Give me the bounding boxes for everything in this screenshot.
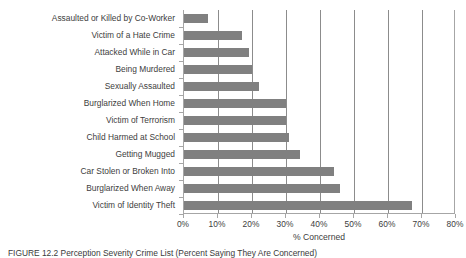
category-label: Sexually Assaulted: [105, 78, 175, 95]
x-tick-mark: [251, 214, 252, 218]
bar-row: [184, 129, 454, 146]
bar: [184, 133, 289, 142]
bar-row: [184, 197, 454, 214]
x-tick-label: 40%: [302, 219, 336, 229]
category-label: Victim of Terrorism: [106, 112, 175, 129]
bar: [184, 65, 252, 74]
bar-chart: Assaulted or Killed by Co-WorkerVictim o…: [0, 0, 466, 232]
x-tick-label: 60%: [370, 219, 404, 229]
bar-row: [184, 10, 454, 27]
x-tick-mark: [217, 214, 218, 218]
x-tick-label: 50%: [336, 219, 370, 229]
x-tick-label: 30%: [268, 219, 302, 229]
x-tick-mark: [183, 214, 184, 218]
bar-row: [184, 163, 454, 180]
plot-area: [183, 10, 455, 214]
x-tick-mark: [353, 214, 354, 218]
x-tick-label: 70%: [404, 219, 438, 229]
bar: [184, 201, 412, 210]
bar: [184, 31, 242, 40]
x-tick-label: 80%: [438, 219, 466, 229]
category-axis-labels: Assaulted or Killed by Co-WorkerVictim o…: [0, 10, 180, 214]
category-label: Getting Mugged: [115, 146, 175, 163]
x-tick-mark: [285, 214, 286, 218]
bar: [184, 14, 208, 23]
bar-row: [184, 78, 454, 95]
bar-row: [184, 146, 454, 163]
bar: [184, 150, 300, 159]
x-tick-mark: [421, 214, 422, 218]
category-label: Victim of a Hate Crime: [91, 27, 175, 44]
x-tick-mark: [319, 214, 320, 218]
bar: [184, 116, 286, 125]
x-tick-label: 0%: [166, 219, 200, 229]
x-tick-label: 10%: [200, 219, 234, 229]
bar-series: [184, 10, 454, 213]
category-label: Child Harmed at School: [87, 129, 175, 146]
figure-caption: FIGURE 12.2 Perception Severity Crime Li…: [8, 248, 466, 258]
bar-row: [184, 27, 454, 44]
bar-row: [184, 61, 454, 78]
category-label: Burglarized When Home: [84, 95, 175, 112]
category-label: Attacked While in Car: [94, 44, 175, 61]
x-axis-title: % Concerned: [183, 232, 455, 242]
bar-row: [184, 180, 454, 197]
bar: [184, 99, 286, 108]
x-tick-mark: [455, 214, 456, 218]
bar-row: [184, 44, 454, 61]
x-tick-label: 20%: [234, 219, 268, 229]
category-label: Being Murdered: [115, 61, 175, 78]
bar: [184, 184, 340, 193]
bar-row: [184, 112, 454, 129]
bar: [184, 82, 259, 91]
category-label: Car Stolen or Broken Into: [80, 163, 175, 180]
category-label: Assaulted or Killed by Co-Worker: [52, 10, 175, 27]
x-tick-mark: [387, 214, 388, 218]
category-label: Victim of Identity Theft: [92, 197, 175, 214]
bar-row: [184, 95, 454, 112]
bar: [184, 48, 249, 57]
bar: [184, 167, 334, 176]
category-label: Burglarized When Away: [86, 180, 175, 197]
